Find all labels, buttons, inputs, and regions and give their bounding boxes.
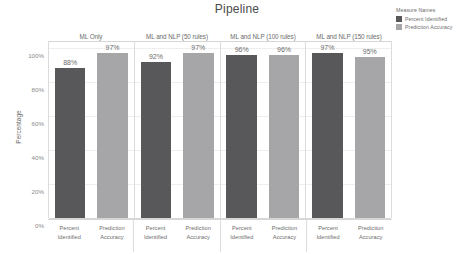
bar-slot: 96% (221, 41, 263, 218)
bar-slot: 95% (349, 41, 391, 218)
x-panel-1: PercentIdentifiedPredictionAccuracy (134, 220, 220, 252)
bar-value-label: 95% (355, 48, 386, 57)
bar[interactable]: 96% (226, 55, 257, 218)
bar-value-label: 96% (226, 46, 257, 55)
panel-1: 92%97% (135, 41, 221, 218)
panel-header-2: ML and NLP (100 rules) (220, 28, 306, 41)
panel-header-0: ML Only (48, 28, 134, 41)
legend-item-percent-identified[interactable]: Percent Identified (396, 16, 474, 22)
legend-swatch-prediction-accuracy (396, 24, 402, 30)
bar[interactable]: 92% (141, 62, 172, 218)
bar-value-label: 97% (183, 44, 214, 53)
y-tick-60: 60% (32, 120, 44, 127)
legend-label-prediction-accuracy: Prediction Accuracy (405, 24, 452, 30)
y-tick-40: 40% (32, 154, 44, 161)
legend-label-percent-identified: Percent Identified (405, 16, 447, 22)
chart-container: Pipeline Measure Names Percent Identifie… (0, 0, 474, 254)
x-tick-label[interactable]: PredictionAccuracy (177, 220, 220, 252)
bar[interactable]: 96% (269, 55, 300, 218)
bar-slot: 97% (177, 41, 219, 218)
panel-header-1: ML and NLP (50 rules) (134, 28, 220, 41)
x-tick-label[interactable]: PercentIdentified (221, 220, 264, 252)
x-tick-label[interactable]: PredictionAccuracy (349, 220, 392, 252)
bar-slot: 97% (306, 41, 348, 218)
y-tick-80: 80% (32, 86, 44, 93)
x-tick-label[interactable]: PredictionAccuracy (263, 220, 306, 252)
x-panel-2: PercentIdentifiedPredictionAccuracy (221, 220, 307, 252)
bar-slot: 88% (49, 41, 91, 218)
bar-slot: 92% (135, 41, 177, 218)
x-tick-label[interactable]: PredictionAccuracy (91, 220, 134, 252)
bar-value-label: 88% (55, 59, 86, 68)
bar[interactable]: 88% (55, 68, 86, 218)
x-tick-label[interactable]: PercentIdentified (307, 220, 350, 252)
y-axis-ticks: 100%80%60%40%20%0% (14, 48, 46, 218)
bar-value-label: 92% (141, 53, 172, 62)
bar[interactable]: 97% (312, 53, 343, 218)
panel-header-3: ML and NLP (150 rules) (306, 28, 392, 41)
y-tick-0: 0% (35, 222, 44, 229)
x-tick-label[interactable]: PercentIdentified (134, 220, 177, 252)
x-tick-label[interactable]: PercentIdentified (48, 220, 91, 252)
x-panel-3: PercentIdentifiedPredictionAccuracy (307, 220, 392, 252)
bar-slot: 96% (263, 41, 305, 218)
panel-header-row: ML OnlyML and NLP (50 rules)ML and NLP (… (48, 28, 392, 42)
bar[interactable]: 95% (355, 57, 386, 219)
y-tick-100: 100% (28, 52, 44, 59)
legend-item-prediction-accuracy[interactable]: Prediction Accuracy (396, 24, 474, 30)
panel-2: 96%96% (221, 41, 307, 218)
panel-0: 88%97% (49, 41, 135, 218)
x-axis-labels: PercentIdentifiedPredictionAccuracyPerce… (48, 219, 392, 252)
legend-swatch-percent-identified (396, 16, 402, 22)
bar-value-label: 97% (97, 44, 128, 53)
y-tick-20: 20% (32, 188, 44, 195)
bar[interactable]: 97% (97, 53, 128, 218)
legend-title: Measure Names (396, 7, 474, 13)
plot-area: 88%97%92%97%96%96%97%95% (48, 41, 392, 218)
bar-slot: 97% (91, 41, 133, 218)
bar-value-label: 96% (269, 46, 300, 55)
bar[interactable]: 97% (183, 53, 214, 218)
bar-value-label: 97% (312, 44, 343, 53)
panel-3: 97%95% (306, 41, 391, 218)
x-panel-0: PercentIdentifiedPredictionAccuracy (48, 220, 134, 252)
legend: Measure Names Percent Identified Predict… (396, 7, 474, 32)
